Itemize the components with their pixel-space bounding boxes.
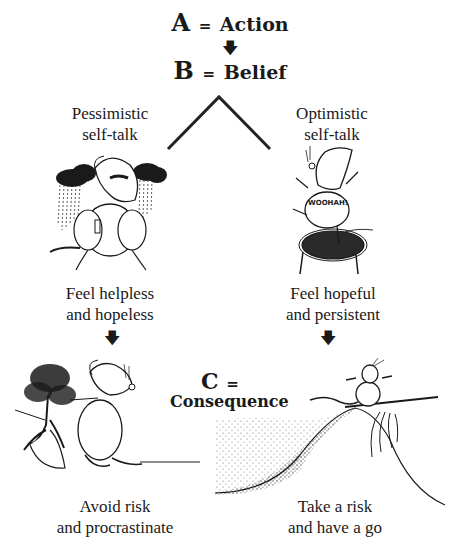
mouse-surfing-wave-icon bbox=[0, 0, 457, 551]
take-line2: and have a go bbox=[270, 517, 400, 538]
avoid-line1: Avoid risk bbox=[40, 496, 190, 517]
take-risk-label: Take a risk and have a go bbox=[270, 496, 400, 538]
take-line1: Take a risk bbox=[270, 496, 400, 517]
avoid-risk-label: Avoid risk and procrastinate bbox=[40, 496, 190, 538]
avoid-line2: and procrastinate bbox=[40, 517, 190, 538]
